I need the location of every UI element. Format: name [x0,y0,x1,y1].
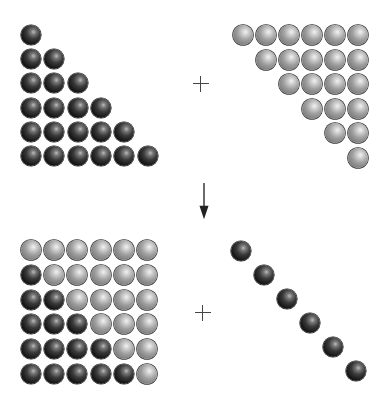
diagram-canvas [0,0,387,407]
down-arrow-icon [196,183,212,223]
dark-ball [323,337,343,357]
plus-sign-top [193,76,209,92]
dark-ball [231,241,251,261]
dark-ball [346,361,366,381]
dark-ball [300,313,320,333]
plus-sign-bottom [195,305,211,321]
dark-ball [254,265,274,285]
panel-bottom-right-dark-diagonal [0,0,387,407]
dark-ball [277,289,297,309]
